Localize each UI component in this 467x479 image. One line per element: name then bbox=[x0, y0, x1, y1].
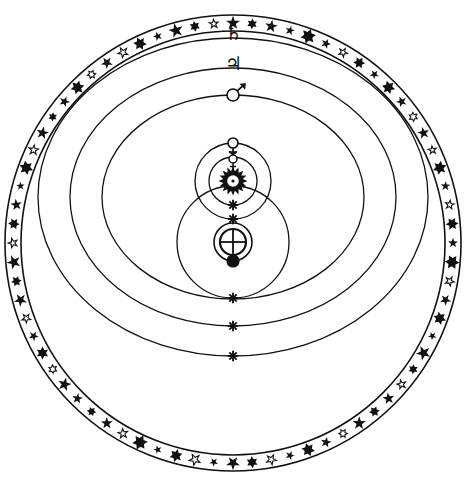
fixed-star bbox=[409, 112, 417, 121]
fixed-star bbox=[101, 417, 113, 428]
fixed-star bbox=[118, 429, 127, 438]
celestial-sphere-canvas: ♄♃ bbox=[0, 0, 467, 479]
celestial-bodies bbox=[219, 83, 248, 267]
fixed-star bbox=[190, 21, 200, 32]
fixed-star bbox=[49, 112, 57, 121]
saturn-orbit bbox=[38, 38, 428, 356]
fixed-star bbox=[132, 435, 148, 449]
fixed-star bbox=[286, 26, 295, 35]
sun-center-dot bbox=[231, 179, 234, 182]
fixed-star bbox=[22, 314, 31, 322]
fixed-star bbox=[8, 219, 20, 230]
saturn-glyph: ♄ bbox=[225, 23, 242, 44]
fixed-star bbox=[353, 416, 366, 429]
fixed-star bbox=[29, 331, 39, 341]
fixed-star bbox=[267, 455, 277, 465]
fixed-star bbox=[10, 199, 21, 210]
fixed-star bbox=[60, 96, 70, 107]
fixed-star bbox=[286, 451, 295, 460]
fixed-star bbox=[382, 81, 395, 94]
fixed-star bbox=[8, 238, 17, 247]
fixed-star bbox=[153, 446, 161, 454]
fixed-star bbox=[417, 127, 429, 139]
fixed-star bbox=[16, 182, 24, 190]
fixed-star bbox=[59, 378, 72, 391]
fixed-star bbox=[339, 48, 348, 57]
fixed-star bbox=[302, 443, 315, 456]
fixed-star bbox=[29, 145, 38, 154]
fixed-star bbox=[440, 295, 451, 306]
fixed-star bbox=[49, 365, 57, 373]
fixed-star bbox=[153, 32, 162, 41]
fixed-star bbox=[168, 23, 182, 37]
fixed-star bbox=[189, 454, 200, 465]
fixed-star bbox=[37, 127, 49, 139]
fixed-star bbox=[396, 96, 406, 107]
fixed-star bbox=[446, 218, 459, 230]
fixed-star bbox=[6, 255, 20, 269]
fixed-star bbox=[445, 277, 454, 286]
venus-disc bbox=[228, 138, 238, 148]
fixed-star bbox=[397, 380, 405, 389]
planetary-orbits bbox=[38, 38, 428, 356]
fixed-star bbox=[301, 29, 316, 44]
fixed-star bbox=[247, 18, 257, 29]
fixed-star bbox=[434, 312, 446, 325]
fixed-star bbox=[265, 20, 277, 32]
fixed-star bbox=[445, 255, 460, 268]
fixed-star bbox=[321, 437, 331, 448]
fixed-star bbox=[14, 294, 27, 306]
fixed-star bbox=[87, 71, 95, 79]
jupiter-glyph: ♃ bbox=[225, 53, 242, 74]
fixed-star bbox=[87, 407, 96, 416]
mercury-disc bbox=[229, 155, 237, 163]
fixed-star bbox=[433, 161, 446, 175]
fixed-star bbox=[441, 181, 450, 190]
moon-disc bbox=[227, 255, 239, 267]
fixed-star bbox=[247, 456, 258, 468]
fixed-star bbox=[428, 332, 436, 340]
fixed-star bbox=[37, 347, 48, 360]
fixed-star bbox=[353, 57, 365, 68]
fixed-star bbox=[409, 364, 418, 374]
fixed-star bbox=[209, 19, 218, 28]
fixed-star bbox=[133, 37, 147, 49]
fixed-star bbox=[448, 238, 458, 247]
fixed-star bbox=[209, 458, 218, 467]
fixed-star bbox=[118, 48, 128, 58]
tychonic-system-diagram: ♄♃ bbox=[0, 0, 467, 479]
fixed-star bbox=[416, 346, 430, 360]
fixed-star bbox=[20, 161, 34, 175]
fixed-star bbox=[72, 393, 83, 404]
fixed-star bbox=[170, 449, 183, 462]
fixed-star bbox=[369, 406, 380, 416]
fixed-star bbox=[370, 70, 379, 79]
fixed-star bbox=[11, 276, 22, 286]
fixed-star bbox=[321, 39, 331, 49]
fixed-star bbox=[446, 200, 455, 209]
fixed-star bbox=[428, 146, 436, 154]
mars-orbit bbox=[102, 95, 364, 299]
fixed-star bbox=[101, 58, 113, 69]
fixed-star bbox=[71, 81, 85, 95]
fixed-star bbox=[226, 457, 240, 470]
jupiter-orbit bbox=[70, 68, 396, 326]
fixed-star bbox=[339, 430, 347, 437]
fixed-star bbox=[382, 392, 394, 404]
planet-glyph-labels: ♄♃ bbox=[225, 23, 242, 74]
